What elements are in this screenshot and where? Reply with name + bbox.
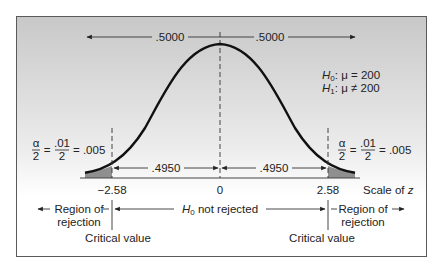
z-tick-right: 2.58 xyxy=(317,184,339,196)
svg-text:= .005: = .005 xyxy=(73,144,105,156)
svg-text:= .005: = .005 xyxy=(379,144,411,156)
top-area-left-label: .5000 xyxy=(156,31,185,43)
svg-text:rejection: rejection xyxy=(57,216,100,228)
svg-text:2: 2 xyxy=(365,150,371,162)
svg-text:2: 2 xyxy=(59,150,65,162)
scale-of-z-label: Scale of z xyxy=(363,184,414,196)
svg-text:Region of: Region of xyxy=(338,203,388,215)
svg-text:α: α xyxy=(339,137,346,149)
critical-value-left: Critical value xyxy=(85,232,151,244)
svg-text:2: 2 xyxy=(339,150,345,162)
svg-text:=: = xyxy=(44,144,51,156)
svg-text:Region of: Region of xyxy=(54,203,104,215)
inner-area-left-label: .4950 xyxy=(152,162,181,174)
z-tick-center: 0 xyxy=(217,184,223,196)
critical-value-right: Critical value xyxy=(289,232,355,244)
svg-text:rejection: rejection xyxy=(341,216,384,228)
normal-curve-diagram: .5000 .5000 H0: μ = 200 H1: μ ≠ 200 α 2 … xyxy=(0,0,444,275)
svg-text:.01: .01 xyxy=(54,137,70,149)
z-tick-left: −2.58 xyxy=(97,184,126,196)
svg-text:=: = xyxy=(350,144,357,156)
svg-text:α: α xyxy=(33,137,40,149)
svg-text:2: 2 xyxy=(33,150,39,162)
hypotheses: H0: μ = 200 H1: μ ≠ 200 xyxy=(322,69,380,96)
inner-area-right-label: .4950 xyxy=(260,162,289,174)
svg-text:.01: .01 xyxy=(360,137,376,149)
top-area-right-label: .5000 xyxy=(256,31,285,43)
